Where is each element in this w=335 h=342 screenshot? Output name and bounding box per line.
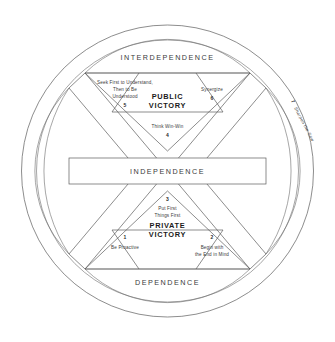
arm-line-bottom-right bbox=[250, 254, 266, 269]
habit-2-number: 2 bbox=[211, 234, 214, 240]
habit-5-number: 5 bbox=[124, 102, 127, 108]
habit-5-line-2: Then to Be bbox=[113, 87, 137, 92]
public-victory-line-2: VICTORY bbox=[149, 101, 186, 110]
arm-line-bottom-left bbox=[69, 254, 85, 269]
habit-6-number: 6 bbox=[211, 95, 214, 101]
arm-line-top-left bbox=[69, 73, 85, 88]
habit-7-number: 7 bbox=[290, 99, 296, 104]
habit-7-line-1: Sharpen the Saw bbox=[293, 106, 316, 143]
covey-diagram-svg: INTERDEPENDENCE INDEPENDENCE DEPENDENCE … bbox=[0, 0, 335, 342]
habit-5-line-3: Understood bbox=[112, 94, 138, 99]
public-victory-line-1: PUBLIC bbox=[152, 92, 184, 101]
habit-3-line-2: Things First bbox=[155, 213, 181, 218]
habit-1-line-1: Be Proactive bbox=[111, 245, 139, 250]
habit-2-begin-with-the-end-in-mind: 2 Begin with the End in Mind bbox=[195, 234, 229, 257]
public-victory-label: PUBLIC VICTORY bbox=[149, 92, 186, 110]
habit-5-seek-first-to-understand: Seek First to Understand, Then to Be Und… bbox=[97, 80, 153, 108]
habit-1-number: 1 bbox=[124, 234, 127, 240]
habit-2-line-2: the End in Mind bbox=[195, 252, 229, 257]
habit-6-line-1: Synergize bbox=[201, 87, 223, 92]
label-independence: INDEPENDENCE bbox=[130, 167, 205, 176]
left-arc-segment bbox=[35, 88, 69, 254]
habit-6-synergize: Synergize 6 bbox=[201, 87, 223, 101]
right-arc-segment bbox=[266, 88, 300, 254]
habit-4-number: 4 bbox=[166, 132, 169, 138]
habit-2-line-1: Begin with bbox=[201, 245, 224, 250]
habit-4-line-1: Think Win-Win bbox=[152, 124, 184, 129]
maturity-continuum-diagram: INTERDEPENDENCE INDEPENDENCE DEPENDENCE … bbox=[0, 0, 335, 342]
habit-1-be-proactive: 1 Be Proactive bbox=[111, 234, 139, 250]
private-victory-label: PRIVATE VICTORY bbox=[149, 221, 186, 239]
habit-4-think-win-win: Think Win-Win 4 bbox=[152, 124, 184, 138]
habit-3-line-1: Put First bbox=[158, 206, 177, 211]
arm-line-top-right bbox=[250, 73, 266, 88]
private-victory-line-1: PRIVATE bbox=[150, 221, 186, 230]
public-victory-inner-right bbox=[196, 73, 223, 112]
habit-3-number: 3 bbox=[166, 196, 169, 202]
label-interdependence: INTERDEPENDENCE bbox=[121, 53, 215, 62]
label-dependence: DEPENDENCE bbox=[135, 278, 200, 287]
private-victory-line-2: VICTORY bbox=[149, 230, 186, 239]
habit-5-line-1: Seek First to Understand, bbox=[97, 80, 153, 85]
